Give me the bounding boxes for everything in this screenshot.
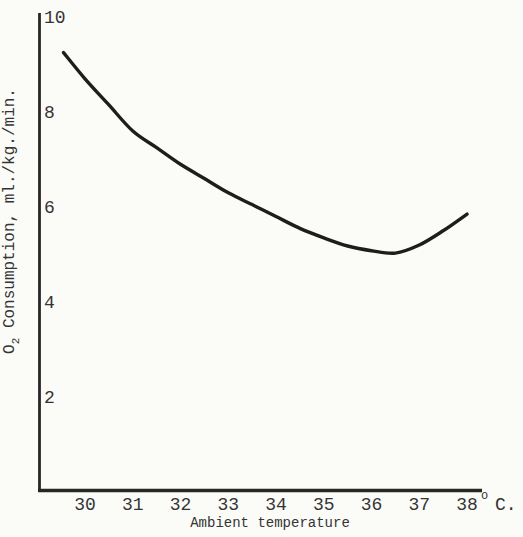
x-tick-label: 37 bbox=[408, 495, 430, 515]
curve-layer bbox=[64, 53, 467, 254]
x-tick-label: 30 bbox=[74, 495, 96, 515]
degree-superscript: o bbox=[481, 489, 488, 503]
x-tick-label: 35 bbox=[313, 495, 335, 515]
x-tick-label: 34 bbox=[265, 495, 287, 515]
x-tick-label: 36 bbox=[361, 495, 383, 515]
x-tick-label: 33 bbox=[217, 495, 239, 515]
y-axis-title-rest: Consumption, ml./kg./min. bbox=[1, 88, 19, 338]
unit-label: C. bbox=[495, 495, 517, 515]
y-axis-title: O2 Consumption, ml./kg./min. bbox=[1, 88, 22, 354]
x-tick-label: 31 bbox=[122, 495, 144, 515]
o2-consumption-curve bbox=[64, 53, 467, 254]
x-axis-title: Ambient temperature bbox=[190, 515, 350, 531]
y-tick-label: 10 bbox=[44, 8, 66, 28]
x-tick-label: 38 bbox=[456, 495, 478, 515]
x-tick-label: 32 bbox=[170, 495, 192, 515]
y-axis-title-base: O bbox=[1, 344, 19, 354]
o2-consumption-chart: 108642303132333435363738 O2 Consumption,… bbox=[0, 0, 523, 537]
y-tick-label: 6 bbox=[44, 198, 55, 218]
y-tick-label: 8 bbox=[44, 103, 55, 123]
tick-label-layer: 108642303132333435363738 bbox=[44, 8, 478, 515]
y-tick-label: 2 bbox=[44, 388, 55, 408]
y-tick-label: 4 bbox=[44, 293, 55, 313]
figure-page: 108642303132333435363738 O2 Consumption,… bbox=[0, 0, 523, 537]
